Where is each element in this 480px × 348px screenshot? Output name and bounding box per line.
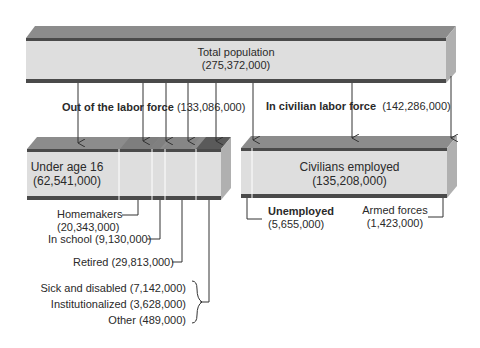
out-of-labor-force-title: Out of the labor force (62, 101, 174, 113)
unemployed-title: Unemployed (268, 205, 334, 218)
under-16-value: (62,541,000) (27, 174, 107, 188)
out-of-labor-force-value: (133,086,000) (177, 101, 246, 113)
total-population-value: (275,372,000) (26, 59, 446, 72)
other-label: Other (489,000) (40, 312, 186, 328)
sick-disabled-label: Sick and disabled (7,142,000) (40, 280, 186, 296)
in-school-label: In school (9,130,000) (48, 233, 151, 246)
under-16-label: Under age 16 (62,541,000) (27, 160, 107, 188)
other-categories-group: Sick and disabled (7,142,000) Institutio… (40, 280, 186, 328)
civilians-employed-value: (135,208,000) (252, 174, 447, 188)
total-population-title: Total population (26, 46, 446, 59)
armed-forces-title: Armed forces (360, 204, 430, 217)
unemployed-label: Unemployed (5,655,000) (268, 205, 334, 231)
under-16-title: Under age 16 (27, 160, 107, 174)
institutionalized-label: Institutionalized (3,628,000) (40, 296, 186, 312)
in-civilian-labor-force-title: In civilian labor force (266, 100, 376, 112)
total-population-label: Total population (275,372,000) (26, 46, 446, 72)
homemakers-title: Homemakers (57, 208, 122, 221)
in-civilian-labor-force-value: (142,286,000) (382, 100, 451, 112)
in-civilian-labor-force-label: In civilian labor force (142,286,000) (266, 100, 451, 113)
out-of-labor-force-label: Out of the labor force (133,086,000) (62, 101, 245, 114)
unemployed-value: (5,655,000) (268, 218, 334, 231)
armed-forces-label: Armed forces (1,423,000) (360, 204, 430, 230)
armed-forces-value: (1,423,000) (360, 217, 430, 230)
homemakers-label: Homemakers (20,343,000) (57, 208, 122, 234)
civilians-employed-label: Civilians employed (135,208,000) (252, 160, 447, 188)
civilians-employed-title: Civilians employed (252, 160, 447, 174)
retired-label: Retired (29,813,000) (73, 256, 174, 269)
